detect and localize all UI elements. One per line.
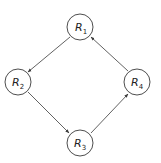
edge-r3-to-r4 — [91, 94, 128, 133]
node-r2: R2 — [5, 69, 31, 95]
node-r1: R1 — [67, 14, 93, 40]
graph-diagram: R1 R2 R3 R4 — [0, 0, 161, 163]
graph-svg: R1 R2 R3 R4 — [0, 0, 161, 163]
edge-r4-to-r1 — [91, 37, 128, 71]
edge-r2-to-r3 — [28, 92, 69, 133]
node-r3: R3 — [67, 130, 93, 156]
edge-r1-to-r2 — [28, 37, 70, 72]
node-r4: R4 — [124, 69, 150, 95]
